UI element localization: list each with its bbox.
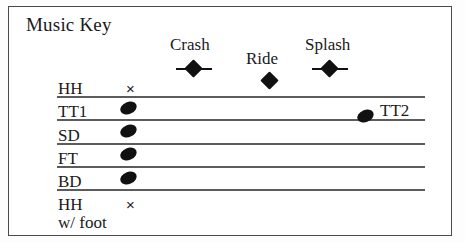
cymbal-diamond-with-line-icon-splash bbox=[312, 60, 348, 78]
cymbal-label-crash: Crash bbox=[170, 36, 210, 53]
staff-note-label-tt2: TT2 bbox=[380, 102, 409, 119]
row-label-bd-4: BD bbox=[58, 173, 82, 190]
x-marker-icon-0: × bbox=[126, 81, 135, 96]
diamond-icon bbox=[320, 59, 338, 77]
x-marker-icon-5: × bbox=[126, 197, 135, 212]
row-sublabel-hh-foot: w/ foot bbox=[58, 214, 107, 231]
diamond-icon bbox=[184, 59, 202, 77]
cymbal-label-splash: Splash bbox=[305, 36, 350, 53]
row-label-hh-0: HH bbox=[58, 80, 83, 97]
row-label-tt1-1: TT1 bbox=[58, 103, 87, 120]
diamond-icon bbox=[260, 71, 278, 89]
page-title: Music Key bbox=[26, 14, 112, 36]
row-label-sd-2: SD bbox=[58, 127, 80, 144]
row-label-ft-3: FT bbox=[58, 150, 78, 167]
cymbal-label-ride: Ride bbox=[246, 50, 278, 67]
cymbal-diamond-icon-ride bbox=[252, 72, 288, 90]
cymbal-diamond-with-line-icon-crash bbox=[176, 60, 212, 78]
music-key-figure: Music Key HH×TT1SDFTBDHH×w/ footCrashRid… bbox=[0, 0, 465, 242]
row-label-hh-5: HH bbox=[58, 196, 83, 213]
